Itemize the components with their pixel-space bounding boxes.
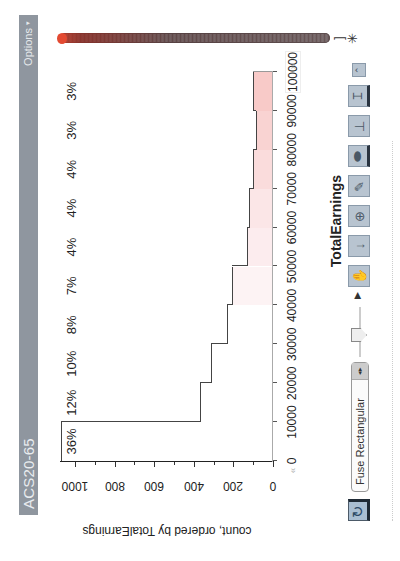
- y-tick: [273, 462, 274, 467]
- x-tick-label: 90000: [285, 94, 299, 127]
- status-divider: [392, 141, 394, 521]
- eraser-tool-button[interactable]: ⬬: [348, 145, 370, 167]
- bar-step-edge: [253, 110, 256, 111]
- grab-icon: ✋: [352, 268, 367, 284]
- histogram-bar[interactable]: [247, 228, 273, 267]
- y-tick-label: 600: [139, 479, 169, 493]
- y-tick-label: 0: [258, 479, 288, 493]
- x-tick-label: 10000: [285, 405, 299, 438]
- x-tick: [273, 421, 277, 422]
- x-tick-label: 0: [285, 458, 299, 465]
- arrow-down-icon: ↓: [352, 243, 367, 250]
- y-tick: [154, 462, 155, 467]
- scroll-left-icon[interactable]: «: [288, 468, 298, 473]
- y-tick: [214, 462, 215, 465]
- x-tick: [273, 382, 277, 383]
- expand-icon: ⌃: [354, 66, 364, 74]
- options-label: Options: [22, 28, 34, 66]
- add-point-icon: ⊕: [352, 211, 367, 222]
- select-arrows-icon: ◂▸: [352, 363, 368, 380]
- add-point-tool-button[interactable]: ⊕: [348, 205, 370, 227]
- percent-label: 4%: [64, 199, 79, 218]
- histogram-bar[interactable]: [61, 422, 273, 461]
- x-axis-line: [272, 71, 273, 462]
- x-tick: [273, 188, 277, 189]
- percent-label: 4%: [64, 160, 79, 179]
- bar-step-edge: [211, 343, 228, 344]
- y-tick-label: 1000: [60, 479, 90, 493]
- y-tick: [253, 462, 254, 465]
- slider-handle[interactable]: [57, 33, 67, 44]
- x-tick-label: 50000: [285, 250, 299, 283]
- y-tick: [95, 462, 96, 465]
- arrow-down-tool-button[interactable]: ↓: [348, 235, 370, 257]
- eraser-icon: ⬬: [350, 151, 366, 162]
- histogram-bar[interactable]: [200, 383, 273, 422]
- histogram-bar[interactable]: [253, 150, 273, 189]
- plot-left-border: [60, 461, 274, 462]
- refresh-button[interactable]: ↻: [348, 499, 370, 521]
- caret-down-icon: ▾: [24, 21, 31, 25]
- fuse-mode-value: Fuse Rectangular: [354, 398, 366, 485]
- x-tick-label: 60000: [285, 211, 299, 244]
- x-tick: [273, 304, 277, 305]
- y-tick: [194, 462, 195, 467]
- histogram-bar[interactable]: [256, 111, 273, 150]
- bar-step-edge: [227, 304, 232, 305]
- x-tick: [273, 343, 277, 344]
- x-tick: [273, 227, 277, 228]
- grab-tool-button[interactable]: ✋: [348, 265, 370, 287]
- y-tick: [134, 462, 135, 465]
- refresh-icon: ↻: [349, 505, 367, 518]
- percent-label: 4%: [64, 238, 79, 257]
- bar-step-edge: [253, 71, 273, 72]
- percent-label: 36%: [64, 429, 79, 455]
- percent-label: 3%: [64, 82, 79, 101]
- percent-label: 8%: [64, 315, 79, 334]
- y-tick-label: 200: [218, 479, 248, 493]
- x-tick: [273, 110, 277, 111]
- percent-label: 7%: [64, 277, 79, 296]
- x-tick: [273, 71, 277, 72]
- play-icon[interactable]: ▶: [352, 292, 362, 299]
- percent-label: 3%: [64, 121, 79, 140]
- color-range-slider[interactable]: [60, 33, 330, 43]
- histogram-bar[interactable]: [249, 189, 273, 228]
- x-tick-label: 70000: [285, 172, 299, 205]
- histogram-bar[interactable]: [253, 72, 273, 111]
- x-tick-label: 30000: [285, 328, 299, 361]
- y-tick: [115, 462, 116, 467]
- scroll-right-icon[interactable]: »: [288, 64, 298, 69]
- histogram-bar[interactable]: [227, 305, 273, 344]
- x-tick-label: 80000: [285, 133, 299, 166]
- zoom-slider-thumb[interactable]: [351, 328, 367, 342]
- y-tick-label: 400: [179, 479, 209, 493]
- y-tick: [233, 462, 234, 467]
- bottom-toolbar: ↻ Fuse Rectangular ◂▸ ▶ ✋↓⊕✎⬬⊥⌶⌃: [346, 7, 376, 547]
- percent-label: 12%: [64, 390, 79, 416]
- window-title: ACS20-65: [20, 438, 37, 509]
- x-tick: [273, 266, 277, 267]
- y-tick: [174, 462, 175, 465]
- bar-step-edge: [249, 188, 253, 189]
- expand-tool-button[interactable]: ⌃: [352, 63, 366, 77]
- histogram-bar[interactable]: [232, 267, 273, 306]
- bar-step-edge: [232, 266, 247, 267]
- app-stage: ACS20-65 Options▾ ] ✳ 36%12%10%8%7%4%4%4…: [0, 0, 400, 561]
- histogram-bar[interactable]: [211, 344, 273, 383]
- title-bar: ACS20-65 Options▾: [19, 15, 38, 515]
- histogram-tool-button[interactable]: ⌶: [348, 85, 370, 107]
- percent-label: 10%: [64, 351, 79, 377]
- slider-end-bracket-icon: ]: [333, 31, 345, 45]
- bar-step-edge: [253, 149, 256, 150]
- fuse-mode-select[interactable]: Fuse Rectangular ◂▸: [351, 362, 369, 492]
- bar-step-edge: [61, 421, 200, 422]
- x-tick: [273, 460, 277, 461]
- x-tick: [273, 149, 277, 150]
- options-menu-button[interactable]: Options▾: [22, 21, 34, 66]
- paintbrush-tool-button[interactable]: ⊥: [348, 115, 370, 137]
- histogram-icon: ⌶: [350, 92, 366, 100]
- y-tick-label: 800: [100, 479, 130, 493]
- pencil-tool-button[interactable]: ✎: [348, 175, 370, 197]
- paintbrush-icon: ⊥: [352, 121, 367, 132]
